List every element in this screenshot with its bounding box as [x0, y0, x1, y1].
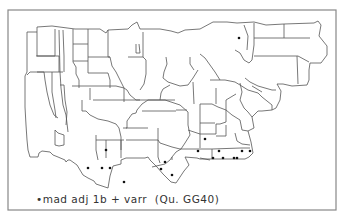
data-dot: [241, 150, 244, 153]
region-outlines: [25, 21, 327, 188]
dialect-map: [0, 0, 345, 222]
data-dot: [171, 174, 174, 177]
data-dot: [164, 161, 167, 164]
data-dot: [204, 138, 207, 141]
map-legend: •mad adj 1b + varr (Qu. GG40): [36, 193, 219, 205]
data-dot: [218, 150, 221, 153]
map-frame-border: [8, 10, 336, 210]
data-dot: [222, 157, 225, 160]
data-dot: [249, 150, 252, 153]
data-dot: [236, 157, 239, 160]
data-dot: [101, 167, 104, 170]
data-dot: [109, 167, 112, 170]
data-dot: [160, 168, 163, 171]
data-dot: [123, 181, 126, 184]
data-dot: [87, 167, 90, 170]
data-dot: [212, 157, 215, 160]
legend-text: mad adj 1b + varr (Qu. GG40): [43, 193, 220, 205]
legend-marker-icon: •: [36, 193, 43, 205]
data-dot: [105, 149, 108, 152]
data-dot: [238, 37, 241, 40]
data-dot: [233, 157, 236, 160]
data-dot: [197, 150, 200, 153]
